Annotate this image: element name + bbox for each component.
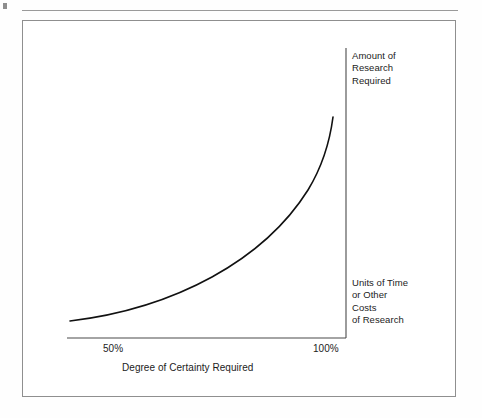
x-axis-title: Degree of Certainty Required <box>122 362 253 374</box>
page-top-rule <box>22 10 458 11</box>
figure-page: Amount of Research Required Units of Tim… <box>0 0 482 418</box>
page-speck-artifact <box>3 3 7 9</box>
x-tick-label-100: 100% <box>313 343 339 355</box>
x-tick-label-50: 50% <box>103 343 123 355</box>
y-axis-label-top: Amount of Research Required <box>352 50 396 87</box>
y-axis-label-bottom: Units of Time or Other Costs of Research <box>352 277 408 327</box>
